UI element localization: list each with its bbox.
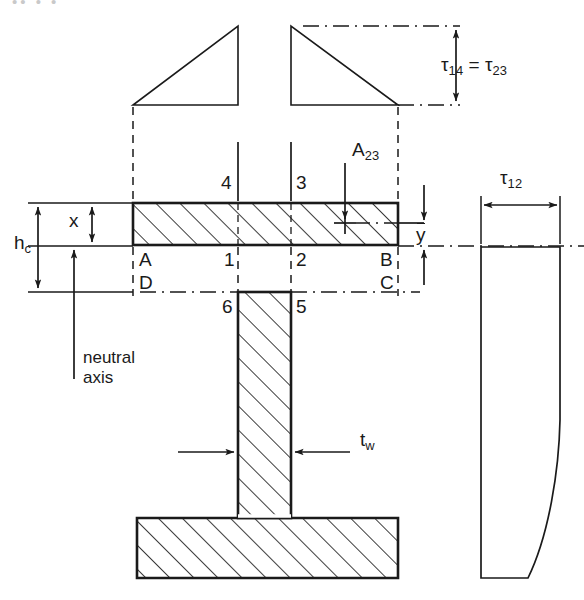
- ybar-label: y: [416, 225, 426, 246]
- projection-dashed-lines: [133, 107, 398, 296]
- web-section: [238, 292, 291, 518]
- figure-root: •• • •: [0, 0, 584, 600]
- beam-diagram-svg: [0, 0, 584, 600]
- node-label-2: 2: [296, 250, 307, 271]
- node-label-5: 5: [296, 297, 307, 318]
- x-label: x: [69, 211, 79, 232]
- node-label-A: A: [139, 250, 152, 271]
- node-label-C: C: [380, 273, 394, 294]
- hc-label: hc: [14, 233, 31, 256]
- A23-label: A23: [352, 140, 379, 163]
- tw-label: tw: [360, 430, 375, 453]
- cut-section-solid-lines: [238, 142, 291, 201]
- node-label-6: 6: [222, 297, 233, 318]
- node-label-B: B: [380, 250, 393, 271]
- node-label-1: 1: [224, 250, 235, 271]
- tau-14-23-label: τ14 = τ23: [441, 55, 507, 78]
- top-flange-section: [133, 203, 398, 245]
- node-label-4: 4: [221, 173, 232, 194]
- shear-triangle-left: [133, 26, 238, 105]
- stress-plot-extension-lines: [481, 196, 560, 244]
- node-label-3: 3: [296, 173, 307, 194]
- bottom-flange-section: [137, 516, 398, 578]
- web-shear-stress-distribution: [481, 247, 560, 578]
- shear-triangle-right: [291, 26, 398, 105]
- node-label-D: D: [139, 273, 153, 294]
- neutral-axis-label: neutralaxis: [83, 348, 135, 388]
- tau-12-label: τ12: [500, 168, 522, 191]
